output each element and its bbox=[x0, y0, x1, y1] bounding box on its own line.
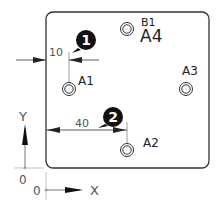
hole-a3 bbox=[180, 83, 193, 96]
y-axis-label: Y bbox=[18, 109, 27, 124]
hole-a1 bbox=[63, 83, 76, 96]
hole-label-a1: A1 bbox=[78, 74, 94, 88]
x-origin-label: 0 bbox=[33, 184, 41, 198]
y-origin-label: 0 bbox=[19, 173, 27, 187]
balloon-2-number: 2 bbox=[108, 109, 118, 125]
hole-label-a2: A2 bbox=[143, 136, 159, 150]
balloon-2: 2 bbox=[98, 107, 123, 128]
hole-label-a4: A4 bbox=[140, 26, 162, 46]
hole-a2 bbox=[121, 144, 134, 157]
hole-label-a3: A3 bbox=[182, 64, 198, 78]
balloon-1-number: 1 bbox=[81, 32, 91, 48]
hole-a4 bbox=[121, 23, 134, 36]
x-axis-label: X bbox=[90, 183, 99, 198]
hole-pattern-drawing: 10 40 A1 A2 A3 A4 B1 1 2 bbox=[0, 0, 223, 209]
hole-label-b1: B1 bbox=[141, 16, 156, 29]
dimension-40-value: 40 bbox=[75, 117, 89, 130]
balloon-1: 1 bbox=[72, 30, 96, 53]
dimension-10-value: 10 bbox=[49, 46, 63, 59]
